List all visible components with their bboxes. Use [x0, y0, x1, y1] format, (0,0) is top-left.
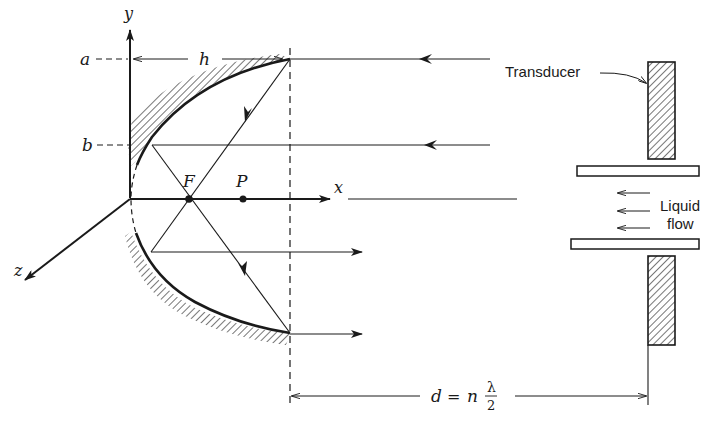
d-two: 2 — [487, 398, 495, 413]
h-label: h — [199, 49, 210, 69]
focus-label: F — [182, 171, 196, 191]
point-p-label: P — [235, 171, 248, 191]
d-lambda: λ — [487, 379, 496, 395]
y-axis-label: y — [123, 4, 134, 23]
pipe-wall-lower — [571, 239, 699, 249]
d-equals: = — [447, 387, 460, 406]
level-a-label: a — [80, 49, 90, 69]
z-axis-label: z — [13, 261, 23, 280]
transducer-upper-element — [648, 62, 675, 159]
level-b-label: b — [82, 135, 93, 155]
x-axis-label: x — [334, 178, 343, 197]
pipe-wall-upper — [577, 166, 699, 176]
liquid-flow-arrows — [618, 193, 650, 228]
d-n: n — [467, 386, 478, 406]
flow-label-line1: Liquid — [660, 197, 700, 214]
point-p — [240, 196, 247, 203]
transducer-label: Transducer — [505, 63, 580, 80]
reflector-upper-hatching — [128, 54, 290, 166]
focus-point — [185, 195, 193, 203]
z-axis — [25, 199, 130, 280]
transducer-leader — [600, 73, 646, 83]
diagram-canvas: y x z a b h F P Trans — [0, 0, 715, 424]
d-label: d — [431, 386, 442, 406]
flow-label-line2: flow — [667, 215, 694, 232]
transducer-lower-element — [648, 256, 675, 345]
